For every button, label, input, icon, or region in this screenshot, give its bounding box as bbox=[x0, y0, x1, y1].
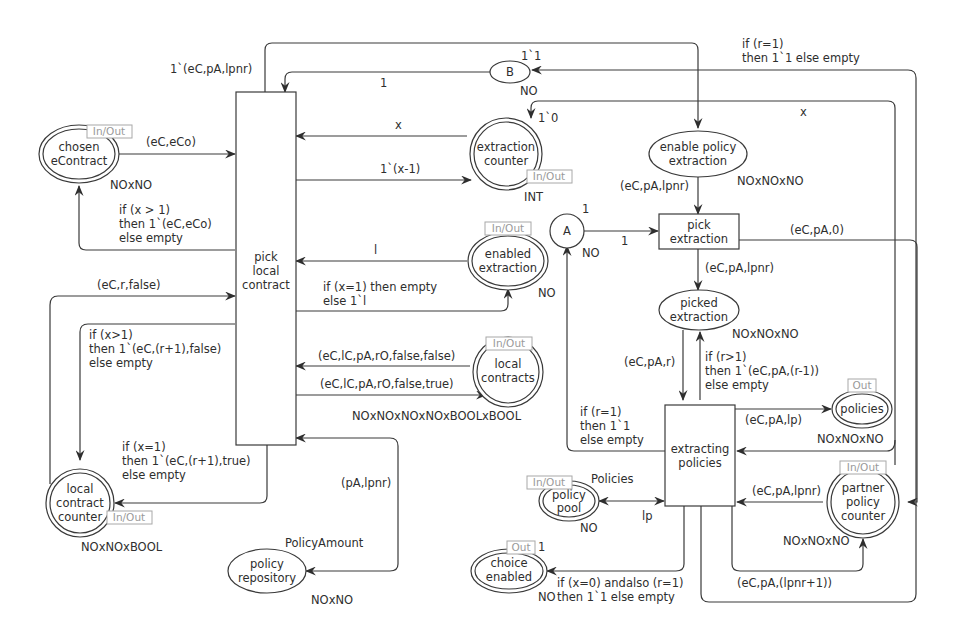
svg-text:enable policy: enable policy bbox=[660, 140, 737, 154]
svg-text:1`(eC,pA,lpnr): 1`(eC,pA,lpnr) bbox=[170, 62, 252, 76]
place-partner-policy-counter[interactable]: partner policy counter In/Out NOxNOxNO bbox=[783, 461, 899, 548]
svg-text:else empty: else empty bbox=[705, 378, 769, 392]
svg-text:policy: policy bbox=[846, 495, 880, 509]
svg-text:NOxNOxBOOL: NOxNOxBOOL bbox=[81, 540, 163, 554]
svg-text:extraction: extraction bbox=[670, 310, 728, 324]
svg-text:if (r>1): if (r>1) bbox=[705, 350, 747, 364]
transition-label: extracting bbox=[671, 442, 730, 456]
svg-text:1: 1 bbox=[621, 234, 628, 248]
svg-text:picked: picked bbox=[680, 296, 717, 310]
svg-text:extraction: extraction bbox=[479, 261, 537, 275]
svg-text:policies: policies bbox=[840, 402, 883, 416]
svg-text:choice: choice bbox=[490, 556, 527, 570]
place-chosen-econtract[interactable]: chosen eContract In/Out NOxNO bbox=[39, 125, 152, 192]
svg-text:Out: Out bbox=[511, 541, 530, 553]
svg-text:NOxNO: NOxNO bbox=[110, 178, 152, 192]
svg-text:policy: policy bbox=[250, 557, 284, 571]
svg-text:counter: counter bbox=[58, 510, 103, 524]
svg-text:else 1`l: else 1`l bbox=[323, 294, 366, 308]
svg-text:else empty: else empty bbox=[580, 433, 644, 447]
transition-label: pick bbox=[687, 218, 711, 232]
svg-text:then 1`(eC,pA,(r-1)): then 1`(eC,pA,(r-1)) bbox=[705, 364, 819, 378]
svg-text:policy: policy bbox=[552, 488, 586, 502]
svg-text:repository: repository bbox=[238, 571, 296, 585]
svg-text:then 1`1: then 1`1 bbox=[580, 419, 630, 433]
transition-label: extraction bbox=[670, 232, 728, 246]
transition-label: policies bbox=[678, 456, 721, 470]
svg-text:1: 1 bbox=[538, 540, 545, 554]
svg-text:1`0: 1`0 bbox=[538, 111, 558, 125]
svg-text:eContract: eContract bbox=[51, 154, 108, 168]
svg-text:then 1`1 else empty: then 1`1 else empty bbox=[742, 51, 860, 65]
svg-text:(eC,pA,lp): (eC,pA,lp) bbox=[745, 413, 802, 427]
svg-text:pool: pool bbox=[557, 501, 582, 515]
arc-inscriptions: 1`(eC,pA,lpnr) 1 (eC,eCo) if (x > 1) the… bbox=[89, 37, 860, 604]
arc-b-to-pick bbox=[285, 72, 490, 92]
svg-text:In/Out: In/Out bbox=[533, 170, 565, 182]
svg-text:(eC,lC,pA,rO,false,false): (eC,lC,pA,rO,false,false) bbox=[318, 349, 455, 363]
transition-label: local bbox=[253, 264, 280, 278]
svg-text:(eC,pA,r): (eC,pA,r) bbox=[624, 355, 675, 369]
svg-text:then 1`(eC,(r+1),true): then 1`(eC,(r+1),true) bbox=[122, 454, 251, 468]
svg-text:l: l bbox=[374, 243, 377, 257]
svg-text:Policies: Policies bbox=[591, 472, 634, 486]
svg-text:NO: NO bbox=[520, 84, 538, 98]
svg-text:else empty: else empty bbox=[122, 468, 186, 482]
svg-text:if (x=1): if (x=1) bbox=[122, 440, 166, 454]
svg-text:NOxNOxNO: NOxNOxNO bbox=[732, 327, 799, 341]
svg-text:NO: NO bbox=[580, 521, 598, 535]
svg-text:else empty: else empty bbox=[119, 231, 183, 245]
svg-text:1: 1 bbox=[582, 202, 589, 216]
svg-text:extraction: extraction bbox=[669, 154, 727, 168]
svg-text:partner: partner bbox=[842, 481, 885, 495]
svg-text:NOxNOxNO: NOxNOxNO bbox=[737, 174, 804, 188]
svg-text:counter: counter bbox=[484, 154, 529, 168]
place-policies[interactable]: policies Out NOxNOxNO bbox=[817, 379, 892, 446]
svg-text:1`1: 1`1 bbox=[521, 49, 541, 63]
svg-text:counter: counter bbox=[841, 509, 886, 523]
svg-text:NO: NO bbox=[582, 246, 600, 260]
svg-text:(eC,pA,lpnr): (eC,pA,lpnr) bbox=[705, 261, 774, 275]
svg-text:(eC,pA,(lpnr+1)): (eC,pA,(lpnr+1)) bbox=[737, 576, 832, 590]
svg-text:1: 1 bbox=[380, 76, 387, 90]
svg-text:In/Out: In/Out bbox=[493, 337, 525, 349]
places: chosen eContract In/Out NOxNO extraction… bbox=[39, 49, 899, 607]
svg-text:contract: contract bbox=[56, 496, 104, 510]
place-b[interactable]: B 1`1 NO bbox=[490, 49, 541, 98]
svg-text:Out: Out bbox=[852, 379, 871, 391]
svg-text:A: A bbox=[563, 224, 571, 238]
svg-text:(eC,pA,0): (eC,pA,0) bbox=[790, 223, 844, 237]
svg-text:NOxNOxNOxNOxBOOLxBOOL: NOxNOxNOxNOxBOOLxBOOL bbox=[352, 409, 522, 423]
svg-text:chosen: chosen bbox=[58, 140, 99, 154]
svg-text:In/Out: In/Out bbox=[93, 125, 125, 137]
svg-text:(eC,r,false): (eC,r,false) bbox=[97, 278, 160, 292]
transition-label: contract bbox=[242, 278, 290, 292]
place-policy-pool[interactable]: policy pool In/Out Policies NO bbox=[527, 472, 634, 535]
svg-text:In/Out: In/Out bbox=[847, 461, 879, 473]
place-choice-enabled[interactable]: choice enabled Out 1 NO bbox=[471, 540, 556, 604]
svg-text:contracts: contracts bbox=[481, 371, 535, 385]
svg-text:if (x>1): if (x>1) bbox=[89, 328, 133, 342]
svg-text:NO: NO bbox=[538, 590, 556, 604]
svg-text:1`(x-1): 1`(x-1) bbox=[380, 162, 420, 176]
arc-pick-to-enable-policy bbox=[265, 43, 698, 128]
svg-text:x: x bbox=[800, 105, 807, 119]
svg-text:if (r=1): if (r=1) bbox=[580, 405, 622, 419]
svg-text:if (x > 1): if (x > 1) bbox=[119, 203, 170, 217]
svg-text:then 1`(eC,eCo): then 1`(eC,eCo) bbox=[119, 217, 212, 231]
svg-text:(eC,pA,lpnr): (eC,pA,lpnr) bbox=[752, 484, 821, 498]
svg-text:NOxNOxNO: NOxNOxNO bbox=[817, 432, 884, 446]
svg-text:enabled: enabled bbox=[486, 570, 532, 584]
svg-text:extraction: extraction bbox=[477, 140, 535, 154]
svg-text:In/Out: In/Out bbox=[533, 476, 565, 488]
place-picked-extraction[interactable]: picked extraction NOxNOxNO bbox=[659, 290, 799, 341]
place-extraction-counter[interactable]: extraction counter In/Out INT 1`0 bbox=[470, 111, 572, 204]
svg-text:(pA,lpnr): (pA,lpnr) bbox=[341, 476, 391, 490]
svg-text:x: x bbox=[395, 118, 402, 132]
svg-text:B: B bbox=[506, 65, 514, 79]
svg-text:NOxNO: NOxNO bbox=[311, 593, 353, 607]
place-enabled-extraction[interactable]: enabled extraction In/Out NO bbox=[468, 222, 556, 300]
svg-text:enabled: enabled bbox=[485, 247, 531, 261]
svg-text:NO: NO bbox=[538, 286, 556, 300]
svg-text:In/Out: In/Out bbox=[113, 511, 145, 523]
